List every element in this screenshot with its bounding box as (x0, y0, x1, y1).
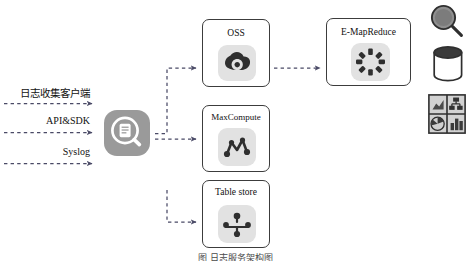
connector-hub-to-oss (155, 68, 196, 134)
cluster-ring-icon (351, 43, 390, 81)
emapreduce-icon-plate (351, 43, 390, 81)
cloud-icon (218, 45, 256, 81)
node-label-maxcompute: MaxCompute (203, 112, 269, 123)
node-label-tablestore: Table store (203, 187, 269, 198)
diagram-canvas: 日志收集客户端 API&SDK Syslog OSS MaxCompute (0, 0, 471, 261)
node-box-tablestore[interactable]: Table store (202, 180, 270, 248)
magnifier-document-icon (104, 110, 150, 156)
node-box-emapreduce[interactable]: E-MapReduce (326, 18, 411, 86)
tablestore-icon-plate (218, 205, 256, 243)
dashboard-charts-glyph (428, 94, 466, 134)
log-service-icon[interactable] (104, 110, 150, 156)
tree-hierarchy-icon (218, 205, 256, 243)
connector-hub-to-tablestore (167, 190, 196, 222)
node-box-oss[interactable]: OSS (202, 19, 270, 87)
node-label-oss: OSS (203, 28, 269, 39)
node-label-emapreduce: E-MapReduce (327, 27, 410, 38)
source-label-log-collection-client: 日志收集客户端 (2, 88, 90, 99)
magnifying-glass-icon[interactable] (428, 4, 466, 39)
source-label-api-sdk: API&SDK (2, 115, 90, 126)
dashboard-charts-icon[interactable] (428, 94, 466, 134)
magnifying-glass-glyph (428, 4, 466, 39)
database-cylinder-glyph (432, 45, 464, 83)
source-label-syslog: Syslog (2, 146, 90, 157)
figure-caption: 图 日志服务架构图 (0, 252, 471, 261)
oss-icon-plate (218, 45, 256, 81)
database-cylinder-icon[interactable] (432, 45, 464, 83)
node-box-maxcompute[interactable]: MaxCompute (202, 105, 270, 172)
maxcompute-icon-plate (218, 128, 256, 166)
node-graph-icon (218, 128, 256, 166)
